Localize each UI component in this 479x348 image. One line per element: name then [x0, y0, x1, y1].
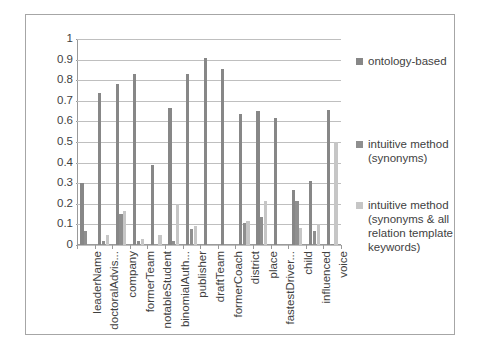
x-axis-tick-mark: [323, 245, 324, 249]
x-axis-label: binomialAuth...: [179, 251, 191, 327]
x-axis-tick-mark: [218, 245, 219, 249]
bar: [260, 217, 263, 245]
bar: [116, 84, 119, 245]
y-axis-tick-label: 0.4: [33, 157, 73, 169]
bar: [309, 181, 312, 245]
bar-group: [165, 39, 183, 245]
bar: [317, 224, 320, 245]
y-axis-tick-label: 0.3: [33, 177, 73, 189]
bar: [292, 190, 295, 245]
plot-area: [77, 39, 341, 245]
bar: [274, 118, 277, 245]
bar: [158, 235, 161, 245]
bar: [299, 228, 302, 246]
x-axis-label: district: [249, 251, 261, 284]
x-axis-label: company: [126, 251, 138, 298]
bar-group: [253, 39, 271, 245]
bar: [256, 111, 259, 245]
bar: [204, 58, 207, 245]
bar-group: [130, 39, 148, 245]
y-axis-tick-label: 0: [33, 239, 73, 251]
bar-group: [271, 39, 289, 245]
x-axis-label: notableStudent: [161, 251, 173, 328]
bar-group: [323, 39, 341, 245]
bar: [246, 221, 249, 245]
y-axis-tick-label: 0.9: [33, 54, 73, 66]
bar: [239, 114, 242, 245]
bar: [190, 229, 193, 245]
bar: [295, 201, 298, 245]
legend-item[interactable]: intuitive method (synonyms): [356, 137, 479, 165]
legend-swatch-icon: [356, 58, 363, 65]
bar-group: [77, 39, 95, 245]
y-axis-tick-label: 0.6: [33, 115, 73, 127]
x-axis-label: child: [302, 251, 314, 275]
legend-item[interactable]: intuitive method (synonyms & all relatio…: [356, 198, 479, 254]
x-axis-tick-mark: [341, 245, 342, 249]
bar: [98, 93, 101, 245]
bar: [331, 244, 334, 245]
bar: [151, 165, 154, 245]
bar-group: [95, 39, 113, 245]
legend-swatch-icon: [356, 202, 363, 209]
bar-group: [306, 39, 324, 245]
x-axis-label: publisher: [196, 251, 208, 298]
legend-label: intuitive method (synonyms): [368, 137, 479, 165]
y-axis-tick-label: 0.5: [33, 136, 73, 148]
legend-label: intuitive method (synonyms & all relatio…: [368, 198, 479, 254]
x-axis-tick-mark: [200, 245, 201, 249]
chart-page: 10.90.80.70.60.50.40.30.20.10 leaderName…: [0, 0, 479, 348]
gridline: [77, 245, 341, 246]
bar: [243, 223, 246, 245]
bar-group: [288, 39, 306, 245]
bar: [123, 211, 126, 245]
x-axis-label: doctoralAdvis...: [108, 251, 120, 330]
bar-group: [235, 39, 253, 245]
x-axis-label: leaderName: [91, 251, 103, 314]
bar: [168, 108, 171, 245]
bar: [80, 183, 83, 245]
x-axis-tick-mark: [271, 245, 272, 249]
bar: [221, 69, 224, 245]
bar: [186, 74, 189, 245]
x-axis-category-labels: leaderNamedoctoralAdvis...companyformerT…: [77, 251, 341, 347]
x-axis-label: formerCoach: [232, 251, 244, 317]
bar: [176, 204, 179, 245]
bar-group: [183, 39, 201, 245]
bar-group: [218, 39, 236, 245]
x-axis-label: draftTeam: [214, 251, 226, 302]
x-axis-tick-mark: [95, 245, 96, 249]
x-axis-tick-mark: [253, 245, 254, 249]
x-axis-tick-mark: [306, 245, 307, 249]
x-axis-label: formerTeam: [144, 251, 156, 312]
x-axis-tick-mark: [288, 245, 289, 249]
bar: [137, 241, 140, 245]
bar: [133, 74, 136, 245]
x-axis-label: place: [267, 251, 279, 279]
x-axis-label: fastestDriver...: [284, 251, 296, 325]
bar: [106, 235, 109, 245]
bar: [334, 142, 337, 245]
legend-swatch-icon: [356, 141, 363, 148]
x-axis-label: influenced: [320, 251, 332, 303]
x-axis-tick-mark: [235, 245, 236, 249]
chart-frame: 10.90.80.70.60.50.40.30.20.10 leaderName…: [25, 14, 455, 335]
bar: [264, 201, 267, 245]
bar: [141, 239, 144, 245]
legend-label: ontology-based: [368, 54, 447, 68]
y-axis-tick-label: 0.1: [33, 218, 73, 230]
bar: [172, 241, 175, 245]
x-axis-tick-mark: [130, 245, 131, 249]
bar: [313, 231, 316, 245]
x-axis-tick-mark: [77, 245, 78, 249]
bar: [327, 110, 330, 245]
bar: [194, 226, 197, 245]
bar-group: [147, 39, 165, 245]
x-axis-tick-mark: [147, 245, 148, 249]
y-axis-tick-labels: 10.90.80.70.60.50.40.30.20.10: [29, 39, 73, 245]
y-axis-tick-label: 0.7: [33, 95, 73, 107]
x-axis-tick-mark: [112, 245, 113, 249]
x-axis-tick-mark: [183, 245, 184, 249]
legend-item[interactable]: ontology-based: [356, 54, 447, 68]
y-axis-tick-label: 0.8: [33, 74, 73, 86]
